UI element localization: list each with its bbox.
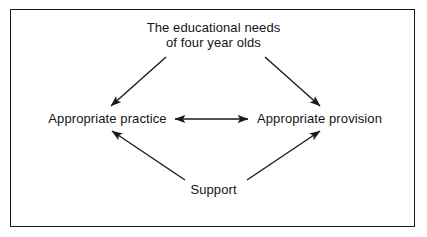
node-educational-needs-line-1: The educational needs	[0, 20, 427, 35]
node-appropriate-provision: Appropriate provision	[212, 111, 427, 126]
node-appropriate-practice: Appropriate practice	[0, 111, 215, 126]
connector-support-to-practice	[112, 131, 185, 180]
connector-needs-to-provision	[265, 57, 320, 106]
node-support: Support	[0, 182, 427, 197]
node-educational-needs-line-2: of four year olds	[0, 35, 427, 50]
diagram-canvas: The educational needs of four year olds …	[0, 0, 427, 237]
connector-needs-to-practice	[111, 57, 166, 106]
connector-support-to-provision	[247, 131, 320, 180]
node-educational-needs: The educational needs of four year olds	[0, 20, 427, 50]
